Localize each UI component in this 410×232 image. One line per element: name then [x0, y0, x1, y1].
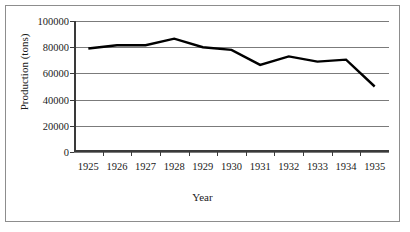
x-tick-label: 1927: [135, 161, 156, 172]
x-tick-label: 1934: [336, 161, 357, 172]
x-tick-mark: [274, 152, 275, 156]
x-tick-label: 1926: [106, 161, 127, 172]
x-tick-mark: [217, 152, 218, 156]
x-tick-label: 1929: [192, 161, 213, 172]
x-tick-mark: [160, 152, 161, 156]
y-tick-mark: [70, 152, 74, 153]
x-tick-mark: [332, 152, 333, 156]
y-tick-label: 40000: [43, 94, 69, 105]
x-tick-mark: [303, 152, 304, 156]
y-tick-label: 0: [64, 147, 69, 158]
y-tick-label: 20000: [43, 120, 69, 131]
x-tick-label: 1925: [78, 161, 99, 172]
gridline: [74, 152, 389, 153]
x-tick-label: 1930: [221, 161, 242, 172]
y-axis-title: Production (tons): [18, 7, 30, 137]
x-tick-label: 1935: [364, 161, 385, 172]
x-tick-mark: [246, 152, 247, 156]
x-tick-mark: [131, 152, 132, 156]
x-tick-label: 1932: [278, 161, 299, 172]
x-tick-label: 1931: [250, 161, 271, 172]
y-tick-label: 80000: [43, 42, 69, 53]
y-tick-label: 60000: [43, 68, 69, 79]
x-tick-mark: [189, 152, 190, 156]
x-tick-mark: [103, 152, 104, 156]
line-series: [74, 21, 389, 152]
x-tick-label: 1933: [307, 161, 328, 172]
plot-area: 020000400006000080000100000 192519261927…: [74, 21, 389, 152]
series-line-production: [88, 39, 374, 87]
y-tick-label: 100000: [38, 16, 70, 27]
chart-figure: Production (tons) 0200004000060000800001…: [5, 5, 400, 222]
x-tick-label: 1928: [164, 161, 185, 172]
x-tick-mark: [360, 152, 361, 156]
x-axis-title: Year: [6, 191, 399, 203]
